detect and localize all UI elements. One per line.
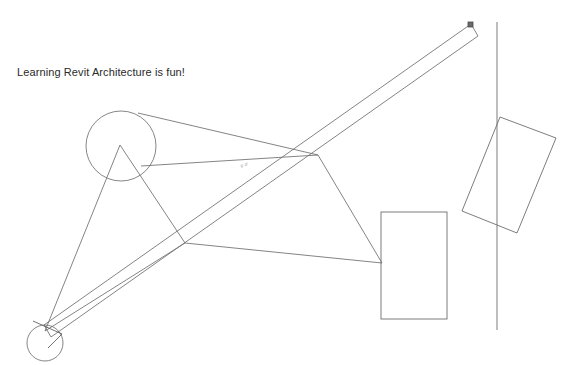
connector-base-to-right[interactable] — [185, 243, 382, 263]
triangle-left[interactable] — [45, 145, 185, 331]
drawing-canvas[interactable]: Learning Revit Architecture is fun! 8' 4… — [0, 0, 579, 365]
connector-circle-to-apex[interactable] — [138, 113, 318, 155]
rectangle-rotated[interactable] — [462, 117, 556, 233]
connector-apex-to-right[interactable] — [318, 155, 382, 263]
rectangle-upright[interactable] — [381, 212, 447, 319]
connector-mid-chord[interactable] — [141, 155, 318, 166]
wall-endpoint-marker[interactable] — [468, 22, 473, 27]
architecture-sketch-svg[interactable] — [0, 0, 579, 365]
note-text: Learning Revit Architecture is fun! — [17, 66, 185, 79]
